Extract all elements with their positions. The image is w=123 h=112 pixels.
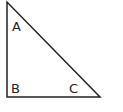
vertex-label-a: A bbox=[12, 19, 21, 34]
vertex-label-b: B bbox=[11, 81, 20, 96]
vertex-label-c: C bbox=[69, 81, 78, 96]
triangle-outline bbox=[7, 2, 100, 97]
right-triangle-diagram: A B C bbox=[0, 0, 123, 112]
